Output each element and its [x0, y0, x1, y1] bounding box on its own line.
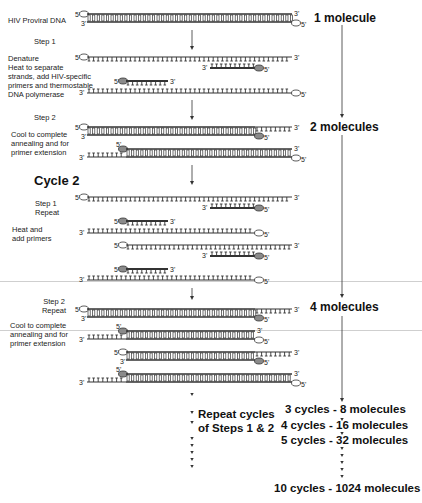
primer-cap	[255, 205, 264, 211]
base-pair	[173, 150, 175, 156]
base-pair	[106, 310, 108, 316]
base-pair	[263, 15, 265, 21]
base-pair	[194, 128, 196, 134]
base-pair	[175, 15, 177, 21]
base-pair	[228, 332, 230, 338]
base-pair	[283, 375, 285, 381]
base-pair	[198, 128, 200, 134]
strand-end-label: 3'	[294, 306, 299, 313]
base-pair	[187, 353, 189, 359]
base-pair	[231, 15, 233, 21]
base-pair	[166, 128, 168, 134]
base-pair	[224, 332, 226, 338]
base-pair	[221, 128, 223, 134]
arrow-head	[190, 46, 194, 50]
base-pair	[145, 353, 147, 359]
base-pair	[203, 128, 205, 134]
base-pair	[141, 375, 143, 381]
base-pair	[111, 128, 113, 134]
base-pair	[237, 353, 239, 359]
base-pair	[187, 332, 189, 338]
base-pair	[102, 128, 104, 134]
base-pair	[242, 150, 244, 156]
base-pair	[150, 375, 152, 381]
strand-end-label: 3'	[81, 315, 86, 322]
base-pair	[141, 353, 143, 359]
base-pair	[139, 15, 141, 21]
base-pair	[127, 375, 129, 381]
base-pair	[212, 310, 214, 316]
base-pair	[182, 375, 184, 381]
base-pair	[283, 150, 285, 156]
strand-end-label: 3'	[79, 89, 84, 96]
base-pair	[180, 310, 182, 316]
base-pair	[185, 15, 187, 21]
base-pair	[191, 150, 193, 156]
base-pair	[187, 150, 189, 156]
base-pair	[231, 128, 233, 134]
base-pair	[139, 128, 141, 134]
base-pair	[173, 353, 175, 359]
base-pair	[148, 310, 150, 316]
base-pair	[125, 310, 127, 316]
base-pair	[242, 375, 244, 381]
base-pair	[244, 310, 246, 316]
base-pair	[272, 15, 274, 21]
base-pair	[244, 15, 246, 21]
base-pair	[120, 128, 122, 134]
dot-arrow	[340, 468, 343, 471]
dot-arrow	[340, 461, 343, 464]
dot-arrow	[190, 437, 193, 440]
base-pair	[191, 332, 193, 338]
base-pair	[141, 332, 143, 338]
base-pair	[260, 375, 262, 381]
base-pair	[214, 353, 216, 359]
strand-cap	[255, 230, 264, 236]
base-pair	[132, 332, 134, 338]
base-pair	[288, 375, 290, 381]
base-pair	[106, 128, 108, 134]
base-pair	[254, 15, 256, 21]
base-pair	[240, 310, 242, 316]
arrow-head	[340, 398, 344, 402]
strand-end-label: 3'	[120, 358, 125, 365]
base-pair	[201, 353, 203, 359]
strand-cap	[255, 277, 264, 283]
base-pair	[88, 128, 90, 134]
base-pair	[219, 332, 221, 338]
dot-arrow	[340, 475, 343, 478]
base-pair	[168, 150, 170, 156]
strand-end-label: 3'	[294, 242, 299, 249]
base-pair	[270, 375, 272, 381]
strand-end-label: 3'	[294, 349, 299, 356]
dot-arrow	[340, 447, 343, 450]
base-pair	[251, 150, 253, 156]
base-pair	[217, 15, 219, 21]
base-pair	[256, 150, 258, 156]
strand-end-label: 3'	[294, 145, 299, 152]
base-pair	[254, 310, 256, 316]
base-pair	[279, 150, 281, 156]
base-pair	[155, 375, 157, 381]
base-pair	[150, 353, 152, 359]
base-pair	[97, 15, 99, 21]
dot-arrow	[340, 454, 343, 457]
base-pair	[159, 375, 161, 381]
base-pair	[212, 15, 214, 21]
base-pair	[175, 128, 177, 134]
base-pair	[247, 150, 249, 156]
arrow-head	[340, 294, 344, 298]
base-pair	[221, 310, 223, 316]
base-pair	[208, 15, 210, 21]
base-pair	[228, 150, 230, 156]
base-pair	[221, 15, 223, 21]
base-pair	[214, 150, 216, 156]
base-pair	[210, 375, 212, 381]
strand-end-label: 3'	[294, 10, 299, 17]
dot-arrow	[340, 418, 343, 421]
base-pair	[281, 15, 283, 21]
base-pair	[191, 353, 193, 359]
base-pair	[228, 353, 230, 359]
base-pair	[166, 15, 168, 21]
base-pair	[168, 332, 170, 338]
